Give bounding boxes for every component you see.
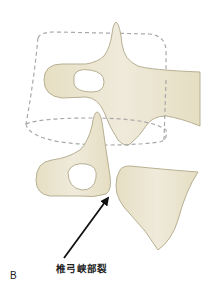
vertebra-diagram [0,0,213,298]
spondylolysis-label: 椎弓峡部裂 [56,261,108,275]
inferior-foramen [68,164,96,190]
superior-vertebra [44,22,200,145]
superior-foramen [74,70,104,92]
pointer-arrow [64,198,108,258]
separated-fragment [116,166,198,250]
vertebral-body-outline-side [26,38,38,124]
panel-label: B [10,270,17,281]
